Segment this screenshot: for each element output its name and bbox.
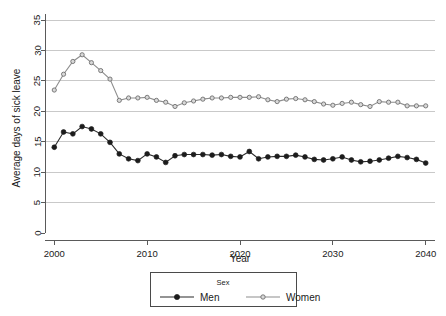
x-tick-label: 2030 [322,248,343,259]
x-axis-title: Year [230,253,251,264]
data-point-men [108,140,113,145]
x-tick-label: 2000 [44,248,65,259]
data-point-women [386,100,390,104]
data-point-women [368,104,372,108]
legend-title: Sex [217,278,230,287]
y-tick-label: 5 [32,200,43,205]
data-point-women [164,100,168,104]
data-point-women [191,99,195,103]
data-point-men [210,153,215,158]
data-point-men [191,152,196,157]
data-point-men [117,152,122,157]
data-point-men [303,155,308,160]
data-point-women [256,95,260,99]
data-point-women [173,104,177,108]
data-point-men [358,159,363,164]
data-point-women [349,100,353,104]
data-point-men [126,156,131,161]
data-point-men [377,158,382,163]
y-tick-label: 10 [32,167,43,178]
data-point-men [405,155,410,160]
data-point-women [210,96,214,100]
data-point-men [284,154,289,159]
data-point-men [238,155,243,160]
data-point-men [386,156,391,161]
data-point-men [368,159,373,164]
y-tick-label: 20 [32,106,43,117]
legend-marker-women [261,295,265,299]
data-point-men [330,156,335,161]
data-point-men [173,153,178,158]
data-point-women [99,68,103,72]
data-point-women [182,101,186,105]
data-point-men [200,152,205,157]
y-axis-title: Average days of sick leave [11,68,22,187]
y-tick-label: 15 [32,136,43,147]
x-axis [45,240,435,245]
chart-svg: 05101520253035 20002010202020302040 Aver… [0,0,446,316]
x-tick-label: 2010 [137,248,158,259]
data-point-men [89,127,94,132]
data-point-women [117,98,121,102]
data-point-men [265,155,270,160]
data-point-women [89,61,93,65]
data-point-women [396,100,400,104]
data-point-men [182,152,187,157]
data-point-men [312,157,317,162]
data-point-men [247,149,252,154]
data-point-women [377,100,381,104]
data-point-men [219,152,224,157]
data-point-men [349,158,354,163]
data-point-men [293,153,298,158]
data-point-women [340,101,344,105]
legend-label-women[interactable]: Women [286,292,320,303]
data-point-men [423,161,428,166]
data-point-women [238,95,242,99]
data-point-men [395,154,400,159]
data-point-women [275,100,279,104]
data-point-women [136,96,140,100]
data-point-women [52,88,56,92]
data-point-women [303,98,307,102]
data-point-women [201,97,205,101]
data-point-women [321,102,325,106]
data-point-women [71,59,75,63]
data-point-women [414,104,418,108]
data-point-women [229,95,233,99]
x-tick-label: 2040 [415,248,436,259]
data-point-women [312,100,316,104]
y-tick-label: 35 [32,15,43,26]
legend: Sex MenWomen [150,272,320,306]
data-point-men [135,158,140,163]
legend-label-men[interactable]: Men [200,292,219,303]
data-point-women [154,98,158,102]
data-point-men [163,160,168,165]
chart-figure: 05101520253035 20002010202020302040 Aver… [0,0,446,316]
y-tick-label: 30 [32,45,43,56]
data-point-women [266,98,270,102]
y-tick-labels: 05101520253035 [32,15,43,236]
data-point-men [80,124,85,129]
data-point-men [256,156,261,161]
data-point-men [61,130,66,135]
y-tick-label: 25 [32,76,43,87]
data-point-men [340,155,345,160]
data-point-women [219,96,223,100]
gridlines [45,20,435,203]
data-point-men [275,154,280,159]
data-point-women [61,72,65,76]
legend-marker-men [174,294,179,299]
data-point-women [331,103,335,107]
data-point-men [154,155,159,160]
data-point-men [52,145,57,150]
data-point-men [414,157,419,162]
data-point-men [98,131,103,136]
data-point-men [70,131,75,136]
x-tick-marks [54,240,425,245]
data-point-men [321,158,326,163]
data-point-women [405,104,409,108]
data-point-women [80,53,84,57]
data-point-women [294,96,298,100]
data-point-women [126,96,130,100]
y-tick-label: 0 [32,230,43,235]
